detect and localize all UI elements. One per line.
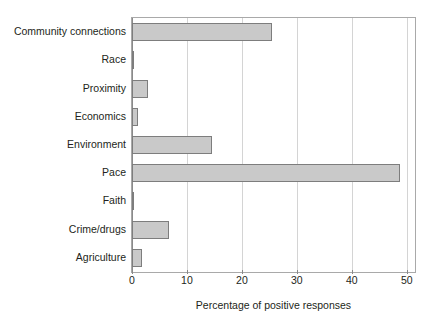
x-tick-label-30: 30 <box>291 274 303 286</box>
x-tick-label-0: 0 <box>129 274 135 286</box>
x-tick-label-50: 50 <box>401 274 413 286</box>
bar-row <box>132 131 415 159</box>
bar <box>132 249 142 267</box>
y-axis-label-environment: Environment <box>0 138 126 150</box>
y-axis-label-agriculture: Agriculture <box>0 251 126 263</box>
bar <box>132 136 212 154</box>
bar-row <box>132 216 415 244</box>
bar <box>132 80 148 98</box>
x-tick-label-10: 10 <box>181 274 193 286</box>
bar-row <box>132 159 415 187</box>
y-axis-label-faith: Faith <box>0 194 126 206</box>
y-axis-label-crime-drugs: Crime/drugs <box>0 223 126 235</box>
bar-row <box>132 46 415 74</box>
x-axis-tick-labels: 01020304050 <box>131 274 416 290</box>
y-axis-label-race: Race <box>0 53 126 65</box>
x-tick-label-40: 40 <box>346 274 358 286</box>
bar-row <box>132 103 415 131</box>
bar-chart: Community connectionsRaceProximityEconom… <box>0 0 444 325</box>
bar <box>132 51 134 69</box>
bars <box>132 18 415 272</box>
y-axis-label-pace: Pace <box>0 166 126 178</box>
y-axis-label-proximity: Proximity <box>0 82 126 94</box>
plot-area <box>131 17 416 273</box>
bar-row <box>132 74 415 102</box>
bar-row <box>132 18 415 46</box>
bar <box>132 23 272 41</box>
bar <box>132 192 134 210</box>
y-axis-label-economics: Economics <box>0 110 126 122</box>
bar-row <box>132 187 415 215</box>
y-axis-category-labels: Community connectionsRaceProximityEconom… <box>0 17 126 273</box>
bar <box>132 164 400 182</box>
bar-row <box>132 244 415 272</box>
x-tick-label-20: 20 <box>236 274 248 286</box>
bar <box>132 221 169 239</box>
bar <box>132 108 138 126</box>
x-axis-title: Percentage of positive responses <box>131 299 416 312</box>
y-axis-label-community-connections: Community connections <box>0 25 126 37</box>
